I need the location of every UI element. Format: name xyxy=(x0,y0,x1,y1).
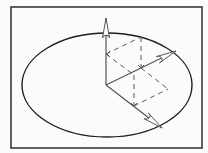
vector-diagram xyxy=(0,0,208,153)
background xyxy=(0,0,208,153)
